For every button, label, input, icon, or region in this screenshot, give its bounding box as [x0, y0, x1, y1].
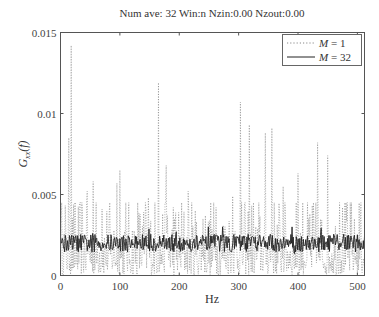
y-tick-label: 0.005: [32, 189, 57, 201]
y-tick-label: 0: [51, 270, 57, 282]
y-axis-label: Gxx(f): [16, 140, 32, 167]
svg-text:Gxx(f): Gxx(f): [16, 140, 32, 167]
x-tick-label: 100: [112, 280, 129, 292]
psd-plot: 0100200300400500 00.0050.010.015 Hz Gxx(…: [0, 0, 379, 317]
x-axis-ticks: 0100200300400500: [58, 33, 366, 292]
x-tick-label: 0: [58, 280, 64, 292]
legend-label-m32: M = 32: [318, 51, 351, 63]
legend: M = 1 M = 32: [283, 35, 362, 66]
x-axis-label: Hz: [205, 292, 219, 306]
x-tick-label: 200: [171, 280, 188, 292]
x-tick-label: 300: [230, 280, 247, 292]
x-tick-label: 400: [290, 280, 307, 292]
x-tick-label: 500: [349, 280, 366, 292]
y-tick-label: 0.015: [32, 27, 57, 39]
legend-label-m1: M = 1: [318, 37, 345, 49]
y-tick-label: 0.01: [37, 108, 56, 120]
